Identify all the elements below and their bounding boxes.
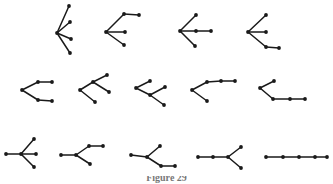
tree-vertex — [68, 20, 72, 24]
tree-vertex — [281, 155, 285, 159]
tree-vertex — [297, 155, 301, 159]
tree-vertex — [313, 155, 317, 159]
tree-vertex — [91, 80, 95, 84]
tree-vertex — [129, 153, 133, 157]
tree-vertex — [219, 79, 223, 83]
tree-vertex — [159, 164, 163, 168]
tree-vertex — [36, 80, 40, 84]
tree-vertex — [105, 73, 109, 77]
tree-vertex — [205, 80, 209, 84]
tree-vertex — [264, 13, 268, 17]
tree-vertex — [226, 155, 230, 159]
tree-vertex — [69, 37, 73, 41]
tree-vertex — [196, 155, 200, 159]
tree-vertex — [158, 144, 162, 148]
tree-vertex — [32, 137, 36, 141]
tree-vertex — [74, 153, 78, 157]
tree-vertex — [101, 144, 105, 148]
tree-vertex — [193, 44, 197, 48]
tree-vertex — [264, 155, 268, 159]
tree-vertex — [137, 13, 141, 17]
tree-vertex — [264, 45, 268, 49]
tree-vertex — [34, 152, 38, 156]
tree-vertex — [59, 153, 63, 157]
tree-vertex — [50, 99, 54, 103]
tree-vertex — [264, 30, 268, 34]
tree-vertex — [122, 43, 126, 47]
tree-vertex — [194, 13, 198, 17]
tree-vertex — [239, 145, 243, 149]
tree-vertex — [122, 12, 126, 16]
tree-vertex — [194, 29, 198, 33]
tree-edge — [38, 100, 52, 101]
tree-vertex — [78, 88, 82, 92]
tree-vertex — [104, 30, 108, 34]
tree-vertex — [19, 152, 23, 156]
tree-vertex — [67, 4, 71, 8]
tree-vertex — [209, 29, 213, 33]
tree-vertex — [134, 86, 138, 90]
figure-drawing-canvas — [0, 0, 333, 184]
tree-vertex — [233, 79, 237, 83]
tree-vertex — [178, 29, 182, 33]
tree-vertex — [93, 100, 97, 104]
tree-vertex — [246, 30, 250, 34]
tree-vertex — [303, 97, 307, 101]
tree-vertex — [205, 99, 209, 103]
tree-vertex — [4, 152, 8, 156]
tree-edge — [124, 14, 139, 15]
tree-vertex — [36, 98, 40, 102]
tree-vertex — [272, 79, 276, 83]
tree-vertex — [258, 86, 262, 90]
tree-vertex — [145, 155, 149, 159]
tree-vertex — [148, 79, 152, 83]
tree-vertex — [20, 88, 24, 92]
tree-edge — [266, 47, 279, 48]
tree-vertex — [239, 166, 243, 170]
tree-vertex — [163, 85, 167, 89]
figure-caption-clip: Figure 29 — [0, 176, 333, 184]
tree-vertex — [162, 103, 166, 107]
tree-vertex — [288, 97, 292, 101]
tree-vertex — [211, 155, 215, 159]
tree-vertex — [68, 51, 72, 55]
tree-vertex — [107, 90, 111, 94]
tree-vertex — [87, 144, 91, 148]
tree-vertex — [173, 164, 177, 168]
tree-vertex — [325, 155, 329, 159]
tree-edge — [207, 81, 221, 82]
tree-vertex — [271, 97, 275, 101]
tree-vertex — [277, 46, 281, 50]
tree-vertex — [123, 30, 127, 34]
figure-caption: Figure 29 — [0, 176, 333, 183]
tree-vertex — [88, 162, 92, 166]
tree-vertex — [148, 93, 152, 97]
tree-vertex — [50, 80, 54, 84]
tree-vertex — [55, 31, 59, 35]
tree-vertex — [190, 88, 194, 92]
tree-vertex — [32, 165, 36, 169]
